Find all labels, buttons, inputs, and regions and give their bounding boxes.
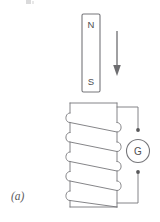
galvanometer-label: G — [134, 146, 142, 157]
downward-motion-arrow — [113, 31, 121, 76]
upper-lead-wire — [117, 107, 138, 130]
coil-turn-3 — [66, 152, 121, 171]
induction-diagram: N S — [0, 0, 160, 222]
coil-turn-2 — [66, 133, 121, 152]
cropped-caption-artifact — [26, 0, 34, 4]
coil-turn-4 — [66, 172, 121, 191]
coil-turn-1 — [66, 113, 121, 132]
lower-lead-wire — [117, 172, 138, 203]
coil-turn-5 — [66, 191, 117, 207]
galvanometer-terminal-bottom — [136, 170, 140, 174]
galvanometer: G — [127, 128, 150, 174]
solenoid-coil — [66, 103, 121, 207]
magnet-south-label: S — [88, 76, 94, 87]
figure-panel-a: N S — [0, 0, 160, 222]
galvanometer-terminal-top — [136, 128, 140, 132]
bar-magnet: N S — [82, 14, 100, 92]
panel-label: (a) — [11, 190, 25, 203]
motion-arrow-head — [113, 65, 121, 76]
magnet-north-label: N — [88, 19, 95, 30]
